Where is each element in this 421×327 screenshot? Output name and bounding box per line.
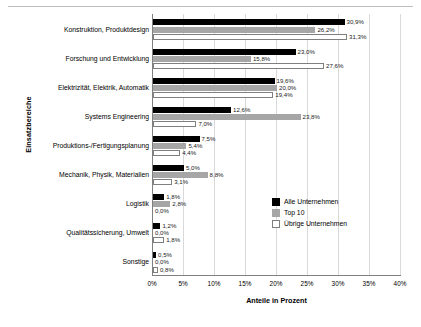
bar-0 — [153, 49, 296, 55]
x-tick-label: 35% — [357, 280, 381, 287]
x-tick-label: 25% — [295, 280, 319, 287]
plot-area: 30,9%26,2%31,3%23,0%15,8%27,6%19,6%20,0%… — [152, 14, 401, 276]
bar-1 — [153, 143, 186, 149]
category-label: Sonstige — [1, 258, 149, 265]
bar-2 — [153, 237, 164, 243]
y-axis-title: Einsatzbereiche — [24, 45, 33, 205]
bar-group: 23,0%15,8%27,6% — [153, 49, 401, 69]
bar-value-label: 8,8% — [210, 172, 224, 178]
bar-1 — [153, 85, 277, 91]
bar-value-label: 15,8% — [253, 56, 270, 62]
bar-value-label: 19,4% — [275, 92, 292, 98]
x-tick-label: 15% — [233, 280, 257, 287]
category-label: Mechanik, Physik, Materialien — [1, 171, 149, 178]
bar-0 — [153, 107, 231, 113]
bar-value-label: 0,8% — [160, 267, 174, 273]
legend-swatch-icon — [272, 209, 280, 217]
legend-item-top-10: Top 10 — [272, 207, 347, 218]
bar-value-label: 12,6% — [233, 107, 250, 113]
bar-value-label: 4,4% — [182, 150, 196, 156]
bar-value-label: 1,8% — [166, 194, 180, 200]
bar-0 — [153, 78, 275, 84]
bar-2 — [153, 267, 158, 273]
legend-swatch-icon — [272, 220, 280, 228]
bar-group: 0,5%0,0%0,8% — [153, 252, 401, 272]
bar-value-label: 3,1% — [174, 179, 188, 185]
bar-value-label: 5,4% — [188, 143, 202, 149]
bar-0 — [153, 252, 156, 258]
bar-value-label: 30,9% — [347, 19, 364, 25]
bar-1 — [153, 172, 208, 178]
category-label: Qualitätssicherung, Umwelt — [1, 229, 149, 236]
bar-value-label: 20,0% — [279, 85, 296, 91]
bar-2 — [153, 34, 347, 40]
bar-value-label: 0,0% — [155, 230, 169, 236]
bar-1 — [153, 201, 170, 207]
legend-item-alle-unternehmen: Alle Unternehmen — [272, 196, 347, 207]
bar-2 — [153, 179, 172, 185]
bar-value-label: 26,2% — [317, 27, 334, 33]
bar-0 — [153, 194, 164, 200]
x-tick-label: 40% — [388, 280, 412, 287]
bar-group: 12,6%23,8%7,0% — [153, 107, 401, 127]
legend-swatch-icon — [272, 198, 280, 206]
x-axis-title: Anteile in Prozent — [152, 296, 401, 305]
bar-0 — [153, 136, 200, 142]
bar-value-label: 7,0% — [198, 121, 212, 127]
legend: Alle Unternehmen Top 10 Übrige Unternehm… — [272, 196, 347, 229]
x-tick-label: 10% — [202, 280, 226, 287]
x-tick-label: 5% — [171, 280, 195, 287]
bar-value-label: 1,8% — [166, 237, 180, 243]
category-label: Konstruktion, Produktdesign — [1, 26, 149, 33]
x-tick-label: 30% — [326, 280, 350, 287]
bar-value-label: 0,0% — [155, 259, 169, 265]
bar-0 — [153, 165, 184, 171]
bar-group: 19,6%20,0%19,4% — [153, 78, 401, 98]
legend-label: Übrige Unternehmen — [284, 220, 347, 227]
legend-label: Top 10 — [284, 209, 304, 216]
x-axis-line — [152, 275, 401, 276]
bar-1 — [153, 114, 301, 120]
category-label: Systems Engineering — [1, 113, 149, 120]
bar-0 — [153, 223, 160, 229]
category-label: Logistik — [1, 200, 149, 207]
bar-1 — [153, 27, 315, 33]
category-label: Elektrizität, Elektrik, Automatik — [1, 84, 149, 91]
bar-value-label: 27,6% — [326, 63, 343, 69]
bar-2 — [153, 121, 196, 127]
bar-2 — [153, 92, 273, 98]
bar-1 — [153, 56, 251, 62]
x-tick-label: 0% — [140, 280, 164, 287]
bar-value-label: 23,0% — [298, 49, 315, 55]
bar-value-label: 19,6% — [277, 78, 294, 84]
bar-group: 5,0%8,8%3,1% — [153, 165, 401, 185]
bar-2 — [153, 150, 180, 156]
top-divider — [8, 6, 413, 7]
bar-group: 30,9%26,2%31,3% — [153, 19, 401, 39]
bar-group: 7,5%5,4%4,4% — [153, 136, 401, 156]
legend-item-uebrige-unternehmen: Übrige Unternehmen — [272, 218, 347, 229]
bar-value-label: 1,2% — [162, 223, 176, 229]
chart-container: Einsatzbereiche 30,9%26,2%31,3%23,0%15,8… — [0, 0, 421, 327]
bar-value-label: 31,3% — [349, 34, 366, 40]
bar-value-label: 5,0% — [186, 165, 200, 171]
bar-value-label: 0,5% — [158, 252, 172, 258]
bar-value-label: 0,0% — [155, 208, 169, 214]
x-tick-label: 20% — [264, 280, 288, 287]
bar-0 — [153, 19, 345, 25]
bar-value-label: 7,5% — [202, 136, 216, 142]
bar-value-label: 23,8% — [303, 114, 320, 120]
legend-label: Alle Unternehmen — [284, 198, 338, 205]
bar-2 — [153, 63, 324, 69]
category-label: Produktions-/Fertigungsplanung — [1, 142, 149, 149]
category-label: Forschung und Entwicklung — [1, 55, 149, 62]
bar-value-label: 2,8% — [172, 201, 186, 207]
